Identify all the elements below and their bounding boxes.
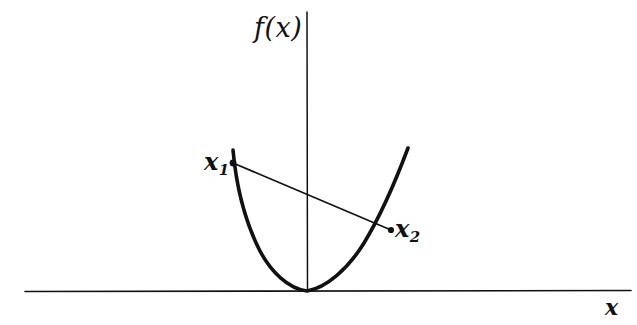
y-axis-label: f(x) — [254, 14, 302, 41]
point-label-x1-base: x — [204, 147, 218, 176]
x-axis-line — [25, 291, 631, 292]
point-label-x1: x1 — [204, 150, 229, 178]
parabola-curve — [233, 148, 408, 291]
point-marker-x1 — [230, 160, 237, 167]
point-label-x1-subscript: 1 — [219, 161, 229, 179]
secant-chord-line — [233, 163, 391, 230]
point-marker-x2 — [388, 227, 394, 233]
figure-canvas — [0, 0, 637, 325]
x-axis-label: x — [605, 296, 618, 318]
y-axis-line — [307, 12, 308, 291]
point-label-x2-base: x — [395, 214, 409, 243]
point-label-x2: x2 — [395, 217, 420, 245]
point-label-x2-subscript: 2 — [410, 228, 420, 246]
convexity-parabola-figure: f(x) x1 x2 x — [0, 0, 637, 325]
